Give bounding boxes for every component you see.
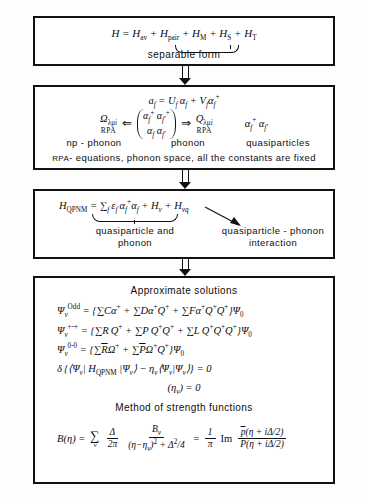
qp-phonon-line2: phonon	[118, 237, 152, 248]
sf-delta-num: Δ	[107, 427, 119, 439]
rpa-footnote-rest: - equations, phonon space, all the const…	[69, 152, 316, 163]
box-hamiltonian: H = Hav + Hpair + HM + HS + HT separable…	[33, 16, 335, 66]
q-rpa-label: RPA	[196, 127, 211, 135]
arrow-box3-to-box4	[178, 259, 192, 276]
label-quasiparticle-phonon-interaction: quasiparticle - phonon interaction	[213, 225, 333, 249]
delta-over-two-pi: Δ 2π	[105, 427, 121, 450]
one-over-pi: 1 π	[205, 427, 216, 450]
q-operator: Qλμi RPA	[196, 113, 213, 136]
p-ratio-fraction: p(η + iΔ/2) P(η + iΔ/2)	[237, 427, 287, 450]
omega-rpa-label: RPA	[101, 127, 116, 135]
box-rpa-phonon: af = Uf αf + Vfαf+ Ωλμi RPA ⇐ αf+ αf′+ α…	[33, 85, 335, 170]
qp-interaction-line1: quasiparticle - phonon	[222, 225, 324, 236]
sf-one: 1	[205, 427, 216, 439]
wavefunction-even-equation: Ψν+-+ = {∑R Q+ + ∑P Q+Q+ + ∑L Q+Q+Q+}Ψ0	[57, 323, 252, 339]
box-approximate-solutions: Approximate solutions ΨνOdd = {∑Cα+ + ∑D…	[33, 276, 335, 484]
operator-bracket: αf+ αf′+ αf αf′	[137, 109, 176, 139]
variational-principle-equation: δ {⟨Ψν| HQPNM |Ψν⟩ − ην⟨Ψν|Ψν⟩} = 0	[57, 362, 211, 377]
rpa-prefix: RPA	[52, 154, 69, 163]
odd-superscript: Odd	[68, 303, 80, 311]
left-double-arrow-icon: ⇐	[122, 116, 132, 131]
qpnm-brace-tick	[134, 220, 135, 224]
quasiparticle-operators: αf+ αf′	[245, 116, 268, 132]
sum-over-nu: ∑ ν	[90, 429, 99, 449]
wavefunction-odd-equation: ΨνOdd = {∑Cα+ + ∑Dα+Q+ + ∑Fα+Q+Q+}Ψ0	[57, 303, 244, 319]
sf-equals: =	[193, 433, 200, 444]
sf-frac-den: P(η + iΔ/2)	[237, 439, 287, 450]
qpnm-equation: HQPNM = ∑f εf αf+αf + Hv + Hvq	[35, 198, 333, 214]
sf-b-den: (η−ην)2 + Δ2/4	[125, 438, 188, 454]
arrow-head	[179, 78, 191, 85]
label-quasiparticles: quasiparticles	[234, 137, 322, 148]
zero-superscript: 0-0	[68, 342, 78, 350]
right-double-arrow-icon: ⇒	[181, 116, 191, 131]
arrow-head	[179, 269, 191, 276]
arrow-box1-to-box2	[178, 66, 192, 85]
bogoliubov-transformation: af = Uf αf + Vfαf+	[35, 93, 333, 109]
sf-pi: π	[205, 439, 216, 450]
secular-equation: (ην) = 0	[35, 382, 333, 396]
arrow-head	[179, 182, 191, 189]
even-superscript: +-+	[68, 323, 79, 331]
label-np-phonon: np - phonon	[46, 137, 142, 148]
rpa-row-labels: np - phonon phonon quasiparticles	[35, 137, 333, 148]
label-quasiparticle-and-phonon: quasiparticle and phonon	[69, 225, 201, 249]
wavefunction-zero-equation: Ψν0-0 = {∑RΩ+ + ∑PΩ+Q+}Ψ0	[57, 342, 184, 358]
sf-lhs: B(η) =	[57, 433, 85, 444]
sf-frac-num: p(η + iΔ/2)	[238, 427, 287, 439]
sf-b-num: Bν	[149, 424, 164, 438]
box-qpnm-hamiltonian: HQPNM = ∑f εf αf+αf + Hv + Hvq quasipart…	[33, 189, 335, 259]
approximate-solutions-title: Approximate solutions	[35, 285, 333, 296]
strength-function-equation: B(η) = ∑ ν Δ 2π Bν (η−ην)2 + Δ2/4 = 1 π …	[57, 424, 287, 454]
sf-delta-den: 2π	[105, 439, 121, 450]
method-of-strength-functions-title: Method of strength functions	[35, 402, 333, 413]
label-phonon: phonon	[142, 137, 234, 148]
arrow-box2-to-box3	[178, 170, 192, 189]
rpa-mapping-row: Ωλμi RPA ⇐ αf+ αf′+ αf αf′ ⇒ Qλμi RPA αf…	[35, 109, 333, 139]
rpa-footnote: RPA- equations, phonon space, all the co…	[35, 152, 333, 163]
qp-interaction-line2: interaction	[249, 237, 297, 248]
bracket-row-creation: αf+ αf′+	[143, 109, 170, 125]
sf-im-operator: Im	[221, 433, 233, 444]
separable-form-label: separable form	[35, 49, 333, 60]
omega-operator: Ωλμi RPA	[100, 113, 117, 136]
diagram-canvas: H = Hav + Hpair + HM + HS + HT separable…	[0, 0, 368, 502]
b-nu-lorentzian: Bν (η−ην)2 + Δ2/4	[125, 424, 188, 454]
qp-phonon-line1: quasiparticle and	[96, 225, 175, 236]
